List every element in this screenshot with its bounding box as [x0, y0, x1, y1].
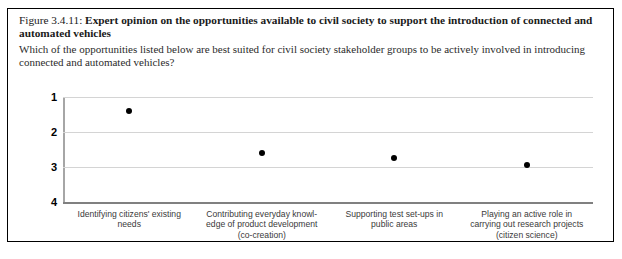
y-tick-4: 4 — [17, 196, 57, 208]
figure-question: Which of the opportunities listed below … — [19, 43, 604, 69]
y-tick-2: 2 — [17, 126, 57, 138]
chart: 1 2 3 4 Identifying citizens' existingne… — [8, 83, 615, 243]
plot-area — [63, 97, 593, 202]
x-axis-label: Supporting test set-ups inpublic areas — [328, 209, 460, 230]
x-axis-label: Identifying citizens' existingneeds — [63, 209, 195, 230]
y-tick-1: 1 — [17, 91, 57, 103]
data-point — [391, 155, 397, 161]
data-point — [524, 162, 530, 168]
x-axis-label: Contributing everyday knowl-edge of prod… — [196, 209, 328, 240]
x-axis-label: Playing an active role incarrying out re… — [461, 209, 593, 240]
gridline-1 — [63, 97, 593, 98]
figure-number: Figure 3.4.11: — [19, 14, 82, 26]
data-point — [126, 108, 132, 114]
data-point — [259, 150, 265, 156]
gridline-2 — [63, 132, 593, 133]
gridline-3 — [63, 167, 593, 168]
figure-title-text: Expert opinion on the opportunities avai… — [19, 14, 592, 39]
figure-container: Figure 3.4.11: Expert opinion on the opp… — [7, 8, 614, 242]
x-axis-labels: Identifying citizens' existingneeds Cont… — [63, 209, 593, 249]
y-tick-3: 3 — [17, 161, 57, 173]
figure-caption: Figure 3.4.11: Expert opinion on the opp… — [19, 14, 604, 69]
y-axis-ticks: 1 2 3 4 — [8, 97, 57, 203]
figure-title: Figure 3.4.11: Expert opinion on the opp… — [19, 14, 604, 40]
x-axis-line — [63, 202, 593, 204]
